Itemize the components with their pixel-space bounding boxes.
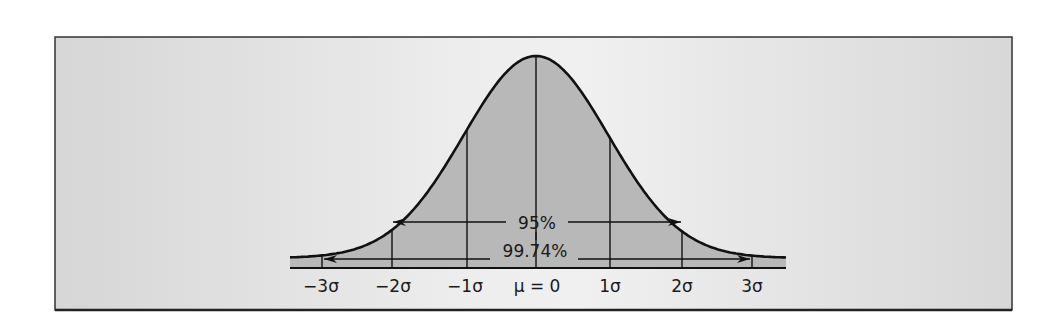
normal-distribution-diagram: 95% 99.74% −3σ −2σ −1σ μ = 0 1σ 2σ 3σ bbox=[0, 0, 1059, 328]
tick-label-1-sigma: 1σ bbox=[599, 276, 621, 296]
label-9974-percent: 99.74% bbox=[503, 241, 568, 261]
tick-label-minus-1-sigma: −1σ bbox=[447, 276, 483, 296]
tick-label-minus-2-sigma: −2σ bbox=[375, 276, 411, 296]
tick-label-3-sigma: 3σ bbox=[741, 276, 763, 296]
tick-label-2-sigma: 2σ bbox=[671, 276, 693, 296]
tick-label-mean: μ = 0 bbox=[514, 276, 561, 296]
label-95-percent: 95% bbox=[518, 213, 556, 233]
tick-label-minus-3-sigma: −3σ bbox=[303, 276, 339, 296]
